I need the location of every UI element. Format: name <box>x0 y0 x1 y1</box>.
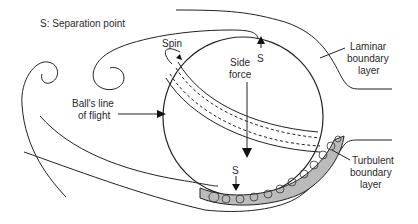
spin-arrow-icon <box>176 54 182 60</box>
cricket-ball-swing-diagram: S: Separation point Spin S Side force S <box>0 0 418 224</box>
spin-label: Spin <box>162 38 182 49</box>
legend-text: S: Separation point <box>40 18 125 29</box>
laminar-label-3: layer <box>358 65 380 76</box>
side-force-label-2: force <box>229 69 252 80</box>
lower-wake-streamline <box>40 116 218 186</box>
flight-label-1: Ball's line <box>72 98 114 109</box>
side-force-label-1: Side <box>230 57 250 68</box>
bottom-separation-arrow-icon <box>232 184 240 191</box>
bottom-separation-label: S <box>232 165 239 176</box>
seam-stitch-2 <box>170 74 320 146</box>
left-wake-curl <box>22 62 66 197</box>
flight-label-2: of flight <box>78 110 110 121</box>
laminar-label-1: Laminar <box>350 41 387 52</box>
turbulent-label-1: Turbulent <box>352 155 394 166</box>
flight-arrow-icon <box>157 110 166 118</box>
turbulent-label-3: layer <box>360 179 382 190</box>
turbulent-label-2: boundary <box>350 167 392 178</box>
laminar-label-2: boundary <box>347 53 389 64</box>
top-separation-label: S <box>257 53 264 64</box>
side-force-arrow-icon <box>242 148 252 158</box>
laminar-leader-line <box>320 48 345 58</box>
